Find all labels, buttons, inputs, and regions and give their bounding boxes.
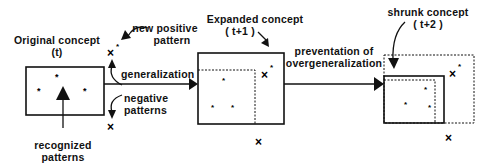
prevention-label: preventation of overgeneralization (284, 45, 384, 69)
new-positive-pattern-label: new positive pattern (130, 22, 200, 46)
recognized-line1: recognized (18, 139, 108, 151)
recognized-line2: patterns (18, 151, 108, 163)
negative-pattern-mark: × (255, 135, 262, 149)
negative-line1: negative (124, 92, 168, 104)
positive-pattern-mark: * (231, 103, 235, 112)
original-concept-time: (t) (2, 46, 112, 58)
shrunk-concept-title: shrunk concept ( t+2 ) (380, 6, 476, 30)
expanded-concept-title: Expanded concept ( t+1 ) (200, 13, 310, 37)
positive-pattern-mark: * (424, 85, 428, 94)
expanded-concept-box: * * * × * (198, 53, 284, 124)
expanded-concept-label: Expanded concept (200, 13, 310, 25)
positive-pattern-mark: * (404, 100, 408, 109)
prevention-line1: preventation of (284, 45, 384, 57)
recognized-patterns-arrow (56, 86, 70, 128)
positive-pattern-mark: * (428, 103, 432, 112)
shrunk-concept-box: * * * × * (384, 55, 474, 123)
original-concept-label: Original concept (2, 34, 112, 46)
negative-patterns-arrows (108, 59, 122, 119)
positive-pattern-mark: * (222, 76, 226, 85)
prevention-arrow (284, 77, 384, 91)
negative-patterns-label: negative patterns (124, 92, 168, 116)
negative-pattern-mark: × (449, 67, 456, 81)
recognized-patterns-label: recognized patterns (18, 139, 108, 163)
new-positive-line2: pattern (130, 34, 200, 46)
new-positive-line1: new positive (130, 22, 200, 34)
shrunk-concept-time: ( t+2 ) (380, 18, 476, 30)
new-positive-pattern-mark: * (116, 42, 120, 51)
negative-pattern-mark: × (445, 131, 452, 145)
negative-pattern-mark: × (261, 68, 268, 82)
positive-pattern-mark: * (270, 63, 274, 72)
original-concept-title: Original concept (t) (2, 34, 112, 58)
positive-pattern-mark: * (458, 62, 462, 71)
prevention-line2: overgeneralization (284, 57, 384, 69)
generalization-label: generalization (121, 68, 194, 80)
positive-pattern-mark: * (37, 86, 41, 96)
shrunk-concept-label: shrunk concept (380, 6, 476, 18)
positive-pattern-mark: * (83, 86, 87, 96)
positive-pattern-mark: * (211, 103, 215, 112)
negative-line2: patterns (124, 104, 168, 116)
positive-pattern-mark: * (55, 72, 59, 82)
expanded-concept-time: ( t+1 ) (200, 25, 310, 37)
negative-pattern-mark: × (107, 120, 114, 134)
